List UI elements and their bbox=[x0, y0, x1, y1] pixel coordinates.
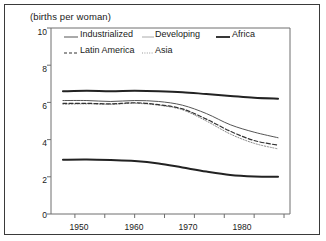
chart-frame: (births per woman) 10 8 6 4 2 0 1950 196… bbox=[4, 4, 320, 235]
series-line-asia bbox=[63, 159, 278, 176]
x-axis-ticks bbox=[75, 214, 284, 218]
y-axis-ticks bbox=[47, 28, 51, 214]
series-line-developing bbox=[63, 103, 278, 149]
chart-axes bbox=[51, 28, 290, 214]
chart-plot-area bbox=[5, 5, 321, 236]
series-line-africa bbox=[63, 91, 278, 99]
chart-series-lines bbox=[63, 91, 278, 177]
series-line-latin-america bbox=[63, 103, 278, 145]
